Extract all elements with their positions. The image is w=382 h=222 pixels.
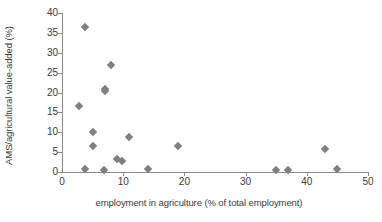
data-point xyxy=(75,102,83,110)
data-point xyxy=(88,142,96,150)
y-axis-tick-label: 25 xyxy=(36,68,58,78)
y-axis-tick-label: 10 xyxy=(36,127,58,137)
scatter-chart: AMS/agricultural value-added (%) 0510152… xyxy=(0,0,382,222)
x-axis-tick-label: 0 xyxy=(47,177,77,187)
y-axis-tick-label: 0 xyxy=(36,167,58,177)
data-point xyxy=(107,60,115,68)
data-point xyxy=(174,142,182,150)
y-axis-title-label: AMS/agricultural value-added (%) xyxy=(3,26,14,165)
x-axis-tick-label: 50 xyxy=(353,177,382,187)
data-point xyxy=(333,165,341,173)
data-point xyxy=(125,132,133,140)
x-axis-tick-label: 30 xyxy=(231,177,261,187)
x-axis-tick-label: 20 xyxy=(169,177,199,187)
x-axis-tick-label: 40 xyxy=(292,177,322,187)
y-axis-tick-label: 40 xyxy=(36,8,58,18)
data-point xyxy=(321,144,329,152)
plot-area xyxy=(62,13,368,172)
data-point xyxy=(118,157,126,165)
y-axis-tick-label: 15 xyxy=(36,107,58,117)
data-point xyxy=(80,23,88,31)
y-axis-tick-labels: 0510152025303540 xyxy=(30,13,58,173)
x-axis-line xyxy=(62,172,369,173)
data-point xyxy=(88,128,96,136)
y-axis-tick-label: 35 xyxy=(36,28,58,38)
data-point xyxy=(272,166,280,174)
x-axis-title: employment in agriculture (% of total em… xyxy=(16,197,382,208)
y-axis-tick-label: 30 xyxy=(36,48,58,58)
x-axis-tick-labels: 01020304050 xyxy=(62,177,369,191)
y-axis-tick-label: 20 xyxy=(36,88,58,98)
y-axis-tick-label: 5 xyxy=(36,147,58,157)
x-axis-tick-label: 10 xyxy=(108,177,138,187)
x-axis-title-label: employment in agriculture (% of total em… xyxy=(96,197,303,208)
y-axis-title: AMS/agricultural value-added (%) xyxy=(0,0,16,190)
